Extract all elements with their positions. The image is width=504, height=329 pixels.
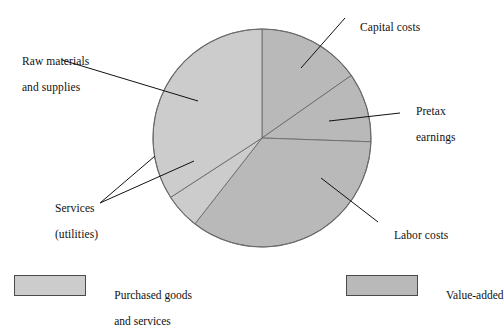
legend-purchased-line2: and services xyxy=(114,315,171,327)
label-raw-materials-line2: and supplies xyxy=(22,81,80,93)
legend-swatch-purchased-goods xyxy=(14,275,86,296)
legend-item-value-added: Value-added xyxy=(346,275,504,315)
label-raw-materials-line1: Raw materials xyxy=(22,55,89,67)
legend-item-purchased-goods: Purchased goods and services xyxy=(14,275,192,329)
legend-purchased-line1: Purchased goods xyxy=(114,289,192,301)
label-services-line1: Services xyxy=(55,202,95,214)
label-pretax-line1: Pretax xyxy=(416,105,446,117)
label-raw-materials: Raw materials and supplies xyxy=(10,42,89,107)
label-capital-costs-text: Capital costs xyxy=(360,21,420,33)
label-pretax-earnings: Pretax earnings xyxy=(404,92,456,157)
label-capital-costs: Capital costs xyxy=(348,8,420,47)
pie-slices-group xyxy=(153,29,371,247)
label-labor-costs-text: Labor costs xyxy=(394,229,448,241)
legend-label-value-added: Value-added xyxy=(429,275,504,315)
legend-swatch-value-added xyxy=(346,275,418,296)
label-services-line2: (utilities) xyxy=(55,228,98,240)
label-labor-costs: Labor costs xyxy=(382,216,448,255)
label-pretax-line2: earnings xyxy=(416,131,456,143)
legend-value-added-line1: Value-added xyxy=(446,289,503,301)
legend-label-purchased-goods: Purchased goods and services xyxy=(97,275,192,329)
leader-line-services-2 xyxy=(100,156,155,203)
label-services: Services (utilities) xyxy=(43,189,98,254)
